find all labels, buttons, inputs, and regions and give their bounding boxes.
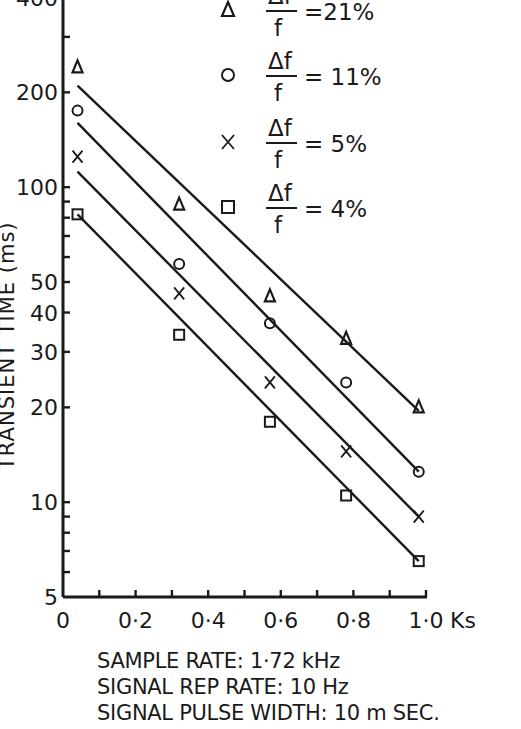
y-tick-label: 10 bbox=[30, 490, 58, 515]
legend-denominator: f bbox=[274, 212, 283, 238]
triangle-marker-icon bbox=[265, 289, 275, 301]
tick-labels: 5102030405010020040000·20·40·60·81·0Ks bbox=[16, 0, 476, 633]
fit-line bbox=[78, 86, 419, 411]
y-tick-label: 50 bbox=[30, 270, 58, 295]
fit-line bbox=[78, 172, 419, 517]
circle-marker-icon bbox=[222, 69, 234, 81]
cross-marker-icon bbox=[414, 511, 424, 523]
x-tick-label: 0·4 bbox=[191, 608, 226, 633]
circle-marker-icon bbox=[341, 377, 351, 387]
legend-denominator: f bbox=[274, 15, 283, 41]
note-pulse-width: SIGNAL PULSE WIDTH: 10 m SEC. bbox=[97, 700, 440, 726]
cross-marker-icon bbox=[174, 287, 184, 299]
x-tick-label: 0·8 bbox=[336, 608, 371, 633]
circle-marker-icon bbox=[73, 106, 83, 116]
legend: Δff=21%Δff= 11%Δff= 5%Δff= 4% bbox=[222, 0, 382, 238]
legend-denominator: f bbox=[274, 80, 283, 106]
triangle-marker-icon bbox=[73, 60, 83, 72]
square-marker-icon bbox=[174, 330, 184, 340]
x-unit-label: Ks bbox=[450, 608, 476, 633]
legend-item: Δff= 4% bbox=[222, 180, 367, 238]
y-tick-label: 30 bbox=[30, 340, 58, 365]
y-tick-label: 5 bbox=[44, 585, 58, 610]
legend-numerator: Δf bbox=[268, 0, 293, 9]
transient-time-chart: 5102030405010020040000·20·40·60·81·0Ks T… bbox=[0, 0, 521, 729]
y-tick-label: 20 bbox=[30, 395, 58, 420]
y-tick-label: 200 bbox=[16, 80, 58, 105]
x-tick-label: 0·2 bbox=[118, 608, 153, 633]
legend-denominator: f bbox=[274, 147, 283, 173]
cross-marker-icon bbox=[341, 445, 351, 457]
y-tick-label: 40 bbox=[30, 301, 58, 326]
x-tick-label: 0·6 bbox=[263, 608, 298, 633]
legend-value: = 4% bbox=[304, 196, 367, 222]
legend-value: =21% bbox=[304, 0, 374, 25]
triangle-marker-icon bbox=[174, 198, 184, 210]
fit-line bbox=[78, 214, 419, 561]
note-rep-rate: SIGNAL REP RATE: 10 Hz bbox=[97, 674, 440, 700]
legend-item: Δff=21% bbox=[222, 0, 374, 41]
legend-numerator: Δf bbox=[268, 115, 293, 141]
legend-numerator: Δf bbox=[268, 48, 293, 74]
square-marker-icon bbox=[222, 201, 234, 213]
circle-marker-icon bbox=[174, 259, 184, 269]
y-tick-label: 100 bbox=[16, 175, 58, 200]
triangle-marker-icon bbox=[222, 2, 234, 16]
cross-marker-icon bbox=[222, 135, 234, 149]
cross-marker-icon bbox=[265, 376, 275, 388]
cross-marker-icon bbox=[73, 151, 83, 163]
fit-lines bbox=[78, 86, 419, 561]
legend-item: Δff= 5% bbox=[222, 115, 367, 173]
legend-value: = 5% bbox=[304, 131, 367, 157]
y-axis-label: TRANSIENT TIME (ms) bbox=[0, 221, 19, 471]
measurement-notes: SAMPLE RATE: 1·72 kHz SIGNAL REP RATE: 1… bbox=[97, 648, 440, 726]
fit-line bbox=[78, 123, 419, 472]
x-tick-label: 0 bbox=[56, 608, 70, 633]
note-sample-rate: SAMPLE RATE: 1·72 kHz bbox=[97, 648, 440, 674]
legend-item: Δff= 11% bbox=[222, 48, 382, 106]
legend-numerator: Δf bbox=[268, 180, 293, 206]
x-tick-label: 1·0 bbox=[409, 608, 444, 633]
legend-value: = 11% bbox=[304, 64, 382, 90]
data-points bbox=[73, 60, 424, 566]
square-marker-icon bbox=[265, 417, 275, 427]
y-tick-label: 400 bbox=[16, 0, 58, 11]
